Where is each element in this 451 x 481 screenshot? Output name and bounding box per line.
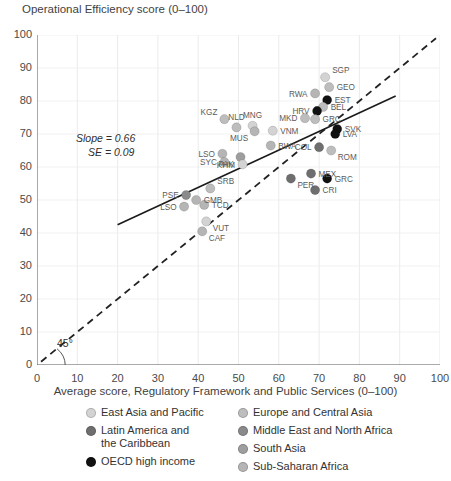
plot-area: SGPGEORWAESTBELHRVMKDGRCKGZMNGMUSVNMSVKL…	[37, 35, 440, 365]
scatter-point	[306, 169, 315, 178]
y-axis-title: Operational Efficiency score (0–100)	[22, 3, 208, 15]
x-tick-label: 70	[299, 372, 339, 384]
angle-annotation: 45°	[57, 336, 73, 350]
legend-marker-icon	[86, 408, 96, 418]
legend-col1-item[interactable]: OECD high income	[86, 455, 236, 468]
legend-marker-icon	[86, 457, 96, 467]
point-label: BEL	[331, 103, 347, 112]
point-label: MNG	[243, 111, 262, 120]
legend-label: Middle East and North Africa	[253, 424, 392, 437]
scatter-point	[218, 149, 227, 158]
scatter-point	[192, 195, 201, 204]
scatter-point	[310, 115, 319, 124]
y-tick-label: 70	[0, 127, 32, 139]
chart-root: Operational Efficiency score (0–100) SGP…	[0, 0, 451, 481]
x-tick-label: 80	[339, 372, 379, 384]
legend-col2-item[interactable]: South Asia	[238, 442, 448, 455]
legend-label: East Asia and Pacific	[101, 406, 204, 419]
legend-label: Sub-Saharan Africa	[253, 460, 348, 473]
point-label: ROM	[338, 153, 357, 162]
legend-label: South Asia	[253, 442, 306, 455]
scatter-point	[268, 126, 277, 135]
plot-svg: SGPGEORWAESTBELHRVMKDGRCKGZMNGMUSVNMSVKL…	[37, 35, 440, 365]
y-tick-label: 80	[0, 94, 32, 106]
point-label: PER	[297, 181, 314, 190]
legend-marker-icon	[86, 426, 96, 436]
point-label: SGP	[332, 66, 350, 75]
point-label: GRC	[323, 115, 341, 124]
point-label: KHM	[217, 161, 235, 170]
scatter-point	[310, 89, 319, 98]
y-tick-label: 60	[0, 160, 32, 172]
y-tick-label: 20	[0, 292, 32, 304]
point-label: GRC	[335, 175, 353, 184]
x-tick-label: 100	[420, 372, 451, 384]
x-tick-label: 30	[138, 372, 178, 384]
scatter-point	[206, 184, 215, 193]
y-tick-label: 40	[0, 226, 32, 238]
legend-marker-icon	[238, 408, 248, 418]
point-label: CRI	[323, 186, 337, 195]
point-label: LVA	[343, 130, 358, 139]
legend-label-line2: the Caribbean	[101, 437, 189, 450]
point-label: KGZ	[201, 108, 218, 117]
point-label: COL	[295, 143, 312, 152]
y-tick-label: 0	[0, 358, 32, 370]
scatter-point	[327, 146, 336, 155]
angle-arc	[57, 349, 65, 365]
scatter-point	[250, 127, 259, 136]
point-label: PSE	[162, 191, 179, 200]
y-tick-label: 50	[0, 193, 32, 205]
point-label: MKD	[279, 114, 297, 123]
legend-marker-icon	[238, 426, 248, 436]
scatter-point	[182, 190, 191, 199]
scatter-point	[315, 143, 324, 152]
scatter-point	[202, 217, 211, 226]
scatter-point	[238, 160, 247, 169]
scatter-point	[198, 227, 207, 236]
legend-marker-icon	[238, 444, 248, 454]
x-axis-title: Average score, Regulatory Framework and …	[0, 385, 451, 397]
point-label: CAF	[209, 234, 225, 243]
scatter-point	[266, 141, 275, 150]
point-label: BWA	[278, 142, 297, 151]
point-label: SRB	[217, 177, 234, 186]
scatter-point	[286, 174, 295, 183]
y-tick-label: 90	[0, 61, 32, 73]
x-tick-label: 0	[17, 372, 57, 384]
y-tick-label: 100	[0, 28, 32, 40]
legend-label: Latin America and	[101, 424, 189, 437]
point-label: GEO	[337, 83, 355, 92]
legend-marker-icon	[238, 462, 248, 472]
legend-column-1: East Asia and PacificLatin America andth…	[86, 406, 236, 473]
legend-label: OECD high income	[101, 455, 195, 468]
scatter-point	[321, 73, 330, 82]
point-label: RWA	[289, 90, 308, 99]
point-label: VNM	[280, 127, 298, 136]
legend-col2-item[interactable]: Sub-Saharan Africa	[238, 460, 448, 473]
y-tick-label: 10	[0, 325, 32, 337]
x-tick-label: 50	[219, 372, 259, 384]
legend-label: Europe and Central Asia	[253, 406, 372, 419]
scatter-point	[312, 106, 321, 115]
legend-col1-item[interactable]: Latin America andthe Caribbean	[86, 424, 236, 450]
x-tick-label: 40	[178, 372, 218, 384]
scatter-point	[325, 83, 334, 92]
x-tick-label: 60	[259, 372, 299, 384]
point-label: SYC	[200, 158, 217, 167]
point-label: TCD	[212, 201, 229, 210]
scatter-point	[232, 123, 241, 132]
point-label: VUT	[213, 224, 229, 233]
slope-annotation: Slope = 0.66 SE = 0.09	[76, 131, 135, 159]
scatter-point	[179, 202, 188, 211]
x-tick-label: 20	[98, 372, 138, 384]
x-tick-label: 10	[57, 372, 97, 384]
legend-col2-item[interactable]: Middle East and North Africa	[238, 424, 448, 437]
point-label: NLD	[228, 113, 244, 122]
scatter-point	[331, 129, 340, 138]
legend-col1-item[interactable]: East Asia and Pacific	[86, 406, 236, 419]
legend-col2-item[interactable]: Europe and Central Asia	[238, 406, 448, 419]
se-value: SE = 0.09	[76, 145, 134, 159]
x-tick-label: 90	[380, 372, 420, 384]
point-label: MUS	[230, 134, 249, 143]
